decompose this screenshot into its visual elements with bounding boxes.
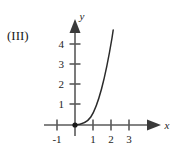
x-tick-label-2: 2	[108, 133, 114, 145]
y-tick-label-1: 1	[59, 98, 65, 110]
x-tick-label-3: 3	[126, 133, 132, 145]
y-axis-label: y	[79, 10, 85, 22]
x-axis-label: x	[164, 119, 170, 131]
x-tick-label--1: -1	[52, 133, 61, 145]
origin-point-marker	[72, 122, 77, 127]
x-axis-arrow-icon	[147, 120, 161, 131]
y-tick-label-4: 4	[59, 38, 65, 50]
y-tick-label-3: 3	[59, 58, 65, 70]
x-tick-label-1: 1	[90, 133, 96, 145]
coordinate-plot: -1 1 2 3 1 2 3 4 x y	[0, 0, 177, 151]
exponential-curve	[75, 30, 113, 125]
y-tick-label-2: 2	[59, 78, 65, 90]
math-figure-panel: (III) -1 1 2 3 1 2 3 4	[0, 0, 177, 151]
